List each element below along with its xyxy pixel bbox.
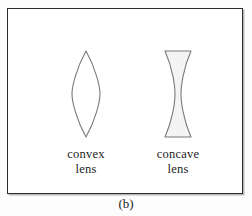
panel-letter: (b) — [0, 196, 252, 212]
concave-lens-caption-line1: concave — [157, 147, 199, 162]
concave-lens-caption: concave lens — [157, 147, 199, 176]
convex-lens-caption-line1: convex — [67, 147, 104, 162]
concave-lens-drawing — [161, 48, 195, 140]
convex-lens-group: convex lens — [38, 48, 134, 178]
figure-panel: convex lens concave lens (b) — [0, 0, 252, 216]
concave-lens-caption-line2: lens — [157, 162, 199, 177]
concave-lens-icon — [161, 49, 195, 139]
convex-lens-caption: convex lens — [67, 147, 104, 176]
convex-lens-drawing — [69, 48, 103, 140]
concave-lens-group: concave lens — [130, 48, 226, 178]
convex-lens-icon — [69, 49, 103, 139]
convex-lens-caption-line2: lens — [67, 162, 104, 177]
diagram-frame: convex lens concave lens — [7, 8, 243, 194]
